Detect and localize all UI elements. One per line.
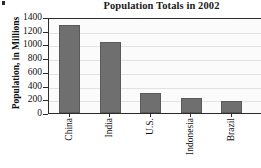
y-axis-tick xyxy=(43,59,48,60)
x-axis-tick xyxy=(190,114,191,117)
chart-title: Population Totals in 2002 xyxy=(62,0,261,12)
bar xyxy=(100,42,121,113)
y-axis-tick xyxy=(43,32,48,33)
x-axis-tick-label: Brazil xyxy=(224,118,238,166)
y-axis-tick xyxy=(43,18,48,19)
x-axis-category-text: Indonesia xyxy=(185,118,195,155)
x-axis-tick-label: U.S. xyxy=(143,118,157,166)
x-axis-tick-label: India xyxy=(102,118,116,166)
x-axis-tick xyxy=(231,114,232,117)
x-axis-category-text: Brazil xyxy=(226,118,236,141)
x-axis-category-text: India xyxy=(104,118,114,138)
y-axis-tick-label: 0 xyxy=(2,109,42,118)
bar xyxy=(59,25,80,113)
bar xyxy=(181,98,202,113)
y-axis-tick-label: 1400 xyxy=(2,13,42,22)
bar xyxy=(221,101,242,113)
y-axis-tick-label: 800 xyxy=(2,54,42,63)
bar-series xyxy=(49,19,261,113)
scan-corner-mark xyxy=(2,1,5,5)
y-axis-tick-label: 1200 xyxy=(2,27,42,36)
plot-area xyxy=(48,18,261,114)
x-axis-category-text: China xyxy=(64,118,74,141)
x-axis-category-text: U.S. xyxy=(145,118,155,135)
y-axis-tick-label: 400 xyxy=(2,82,42,91)
x-axis-tick xyxy=(150,114,151,117)
x-axis-tick xyxy=(69,114,70,117)
bar xyxy=(140,93,161,113)
y-axis-tick xyxy=(43,45,48,46)
y-axis-tick-label: 1000 xyxy=(2,40,42,49)
chart-figure: Population Totals in 2002 Population, in… xyxy=(0,0,261,168)
y-axis-tick-label: 600 xyxy=(2,68,42,77)
y-axis-tick-label: 200 xyxy=(2,95,42,104)
y-axis-tick xyxy=(43,114,48,115)
x-axis-tick-label: China xyxy=(62,118,76,166)
x-axis-tick-label: Indonesia xyxy=(183,118,197,166)
y-axis-tick xyxy=(43,87,48,88)
y-axis-tick xyxy=(43,100,48,101)
y-axis-tick xyxy=(43,73,48,74)
